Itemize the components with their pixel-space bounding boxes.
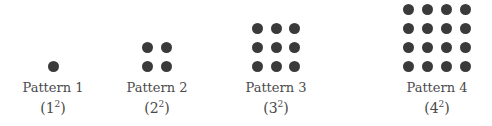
dot [142,42,153,53]
dot [289,42,300,53]
dot [252,23,263,34]
dot [422,4,433,15]
dot [460,61,471,72]
dot [289,23,300,34]
dot [422,42,433,53]
dot [460,23,471,34]
dot [142,61,153,72]
dot [271,61,282,72]
dot [289,61,300,72]
dot [403,42,414,53]
pattern-label: Pattern 3 [226,80,326,96]
pattern-square-expression: (22) [107,100,207,116]
dot [403,23,414,34]
dot [403,4,414,15]
dot [460,42,471,53]
dot [161,42,172,53]
dot [441,42,452,53]
dot [441,23,452,34]
pattern-label: Pattern 4 [387,80,487,96]
dot [460,4,471,15]
pattern-label: Pattern 2 [107,80,207,96]
dot [252,61,263,72]
pattern-square-expression: (32) [226,100,326,116]
dot [422,23,433,34]
pattern-square-expression: (12) [3,100,103,116]
pattern-square-expression: (42) [387,100,487,116]
dot [403,61,414,72]
dot [441,4,452,15]
dot [161,61,172,72]
dot [441,61,452,72]
dot [422,61,433,72]
dot [48,61,59,72]
pattern-label: Pattern 1 [3,80,103,96]
dot [271,23,282,34]
dot [271,42,282,53]
dot [252,42,263,53]
